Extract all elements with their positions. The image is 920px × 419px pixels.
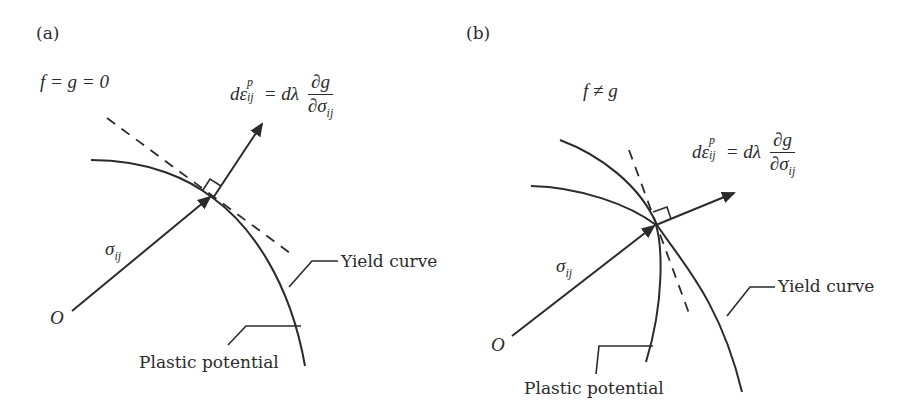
diagram-canvas bbox=[0, 0, 920, 419]
flow-rule-equation-a: dεpij = dλ ∂g∂σij bbox=[230, 72, 333, 120]
plastic-potential-curve-b bbox=[531, 186, 661, 362]
eq-sub-a: ij bbox=[247, 90, 254, 105]
stress-label-b: σij bbox=[556, 255, 572, 281]
eq-num-a: ∂g bbox=[308, 72, 333, 95]
origin-label-a: O bbox=[50, 307, 64, 329]
eq-mid-a: = dλ bbox=[264, 83, 299, 104]
eq-den-b: ∂σ bbox=[770, 153, 789, 174]
panel-label-b: (b) bbox=[466, 23, 490, 43]
eq-den-a: ∂σ bbox=[308, 95, 327, 116]
stress-label-a: σij bbox=[105, 238, 121, 264]
potential-leader-b bbox=[596, 346, 653, 374]
eq-lhs-a: dε bbox=[230, 83, 247, 104]
stress-symbol-a: σ bbox=[105, 238, 114, 259]
plastic-potential-label-a: Plastic potential bbox=[139, 352, 279, 372]
stress-sub-a: ij bbox=[114, 249, 121, 263]
eq-den-sub-a: ij bbox=[327, 106, 334, 120]
yield-leader-b bbox=[727, 287, 775, 316]
eq-fraction-b: ∂g∂σij bbox=[770, 130, 795, 178]
plastic-potential-label-b: Plastic potential bbox=[524, 378, 664, 398]
condition-b: f ≠ g bbox=[583, 80, 618, 102]
eq-lhs-b: dε bbox=[692, 141, 709, 162]
eq-sub-b: ij bbox=[709, 148, 716, 163]
yield-curve-label-b: Yield curve bbox=[778, 276, 874, 296]
stress-vector-a bbox=[72, 197, 210, 311]
eq-den-sub-b: ij bbox=[789, 164, 796, 178]
eq-fraction-a: ∂g∂σij bbox=[308, 72, 333, 120]
origin-label-b: O bbox=[491, 334, 505, 356]
strain-increment-arrow-a bbox=[213, 124, 262, 198]
stress-symbol-b: σ bbox=[556, 255, 565, 276]
flow-rule-equation-b: dεpij = dλ ∂g∂σij bbox=[692, 130, 795, 178]
right-angle-mark-b bbox=[653, 207, 671, 219]
panel-label-a: (a) bbox=[36, 23, 59, 43]
eq-sup-b: p bbox=[709, 133, 715, 148]
potential-leader-a bbox=[228, 326, 301, 345]
yield-curve-label-a: Yield curve bbox=[341, 251, 437, 271]
eq-sup-a: p bbox=[247, 75, 253, 90]
eq-mid-b: = dλ bbox=[726, 141, 761, 162]
yield-curve-a bbox=[91, 160, 305, 366]
yield-leader-a bbox=[289, 261, 338, 287]
stress-vector-b bbox=[512, 226, 654, 336]
condition-a: f = g = 0 bbox=[40, 71, 109, 93]
tangent-line-a bbox=[107, 118, 294, 256]
stress-sub-b: ij bbox=[565, 266, 572, 280]
eq-num-b: ∂g bbox=[770, 130, 795, 153]
